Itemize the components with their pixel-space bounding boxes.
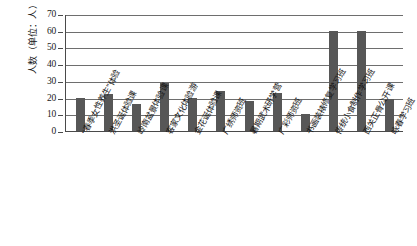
y-tick-mark	[58, 48, 63, 49]
y-axis-ticks: 010203040506070	[0, 0, 65, 147]
y-tick-label: 20	[47, 94, 56, 104]
y-tick-mark	[58, 99, 63, 100]
gridline	[66, 32, 403, 33]
gridline	[66, 48, 403, 49]
y-tick-mark	[58, 15, 63, 16]
y-tick-label: 70	[47, 10, 56, 20]
y-tick-label: 30	[47, 77, 56, 87]
y-tick-mark	[58, 32, 63, 33]
y-tick-mark	[58, 82, 63, 83]
gridline	[66, 15, 403, 16]
x-axis-labels: “春季女性养生”体验洪圣诞体验课岭南盆景体验课客家文化体验游金花诞体验课广绣师资…	[0, 132, 410, 246]
y-tick-label: 10	[47, 111, 56, 121]
y-tick-label: 40	[47, 60, 56, 70]
y-tick-mark	[58, 65, 63, 66]
y-tick-label: 50	[47, 44, 56, 54]
y-tick-mark	[58, 115, 63, 116]
gridline	[66, 65, 403, 66]
y-tick-label: 60	[47, 27, 56, 37]
